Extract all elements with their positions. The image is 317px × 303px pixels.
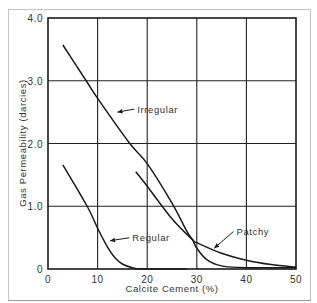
arrowhead-icon <box>117 109 122 113</box>
annotation-regular: Regular <box>132 232 169 243</box>
x-tick-label: 40 <box>240 274 252 285</box>
y-axis-title: Gas Permeability (darcies) <box>17 79 28 207</box>
x-axis-title: Calcite Cement (%) <box>125 283 218 294</box>
figure-frame <box>8 9 311 301</box>
annotation-irregular: Irregular <box>137 104 178 115</box>
series-line-patchy <box>136 172 296 267</box>
x-tick-label: 0 <box>45 274 51 285</box>
series-line-regular <box>63 165 187 269</box>
annotations: IrregularRegularPatchy <box>110 104 269 249</box>
y-tick-label: 1.0 <box>28 201 43 212</box>
arrowhead-icon <box>110 238 115 242</box>
y-tick-label: 3.0 <box>28 76 43 87</box>
x-tick-label: 10 <box>92 274 104 285</box>
x-tick-label: 50 <box>290 274 302 285</box>
chart: 01020304050 01.02.03.04.0 Calcite Cement… <box>0 0 317 303</box>
y-axis-ticks: 01.02.03.04.0 <box>28 13 43 275</box>
y-tick-label: 0 <box>37 264 43 275</box>
y-tick-label: 2.0 <box>28 139 43 150</box>
y-tick-label: 4.0 <box>28 13 43 24</box>
annotation-patchy: Patchy <box>236 226 269 237</box>
